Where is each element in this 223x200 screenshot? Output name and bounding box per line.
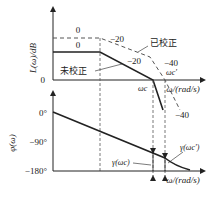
uncorrected-flat-slope: 0 [76, 40, 81, 50]
magnitude-x-label: ω/(rad/s) [166, 84, 199, 94]
corrected-margin-leader [168, 152, 183, 163]
corrected-flat-slope: 0 [76, 25, 81, 35]
corrected-mid-slope: −20 [110, 34, 125, 44]
uncorrected-magnitude-curve [53, 52, 163, 110]
corrected-crossover-label: ωc' [166, 68, 177, 77]
uncorrected-high-slope: −40 [175, 110, 190, 120]
phase-x-label: ω/(rad/s) [166, 175, 199, 185]
uncorrected-crossover-label: ωc [138, 84, 148, 93]
uncorrected-mid-slope: −20 [127, 56, 142, 66]
bode-diagram: 0 L(ω)/dB 0 0 −20 −20 −40 −40 已校正 未校正 ωc… [0, 0, 223, 200]
magnitude-zero-tick: 0 [41, 75, 46, 85]
corrected-margin-label: γ(ωc') [180, 143, 200, 152]
uncorrected-curve-label: 未校正 [60, 65, 87, 76]
phase-tick-0: 0° [39, 108, 48, 118]
phase-y-label: φ(ω) [7, 134, 17, 151]
phase-plot: 0° −90° −180° φ(ω) γ(ωc) γ(ωc') ω/(rad/s… [7, 93, 203, 185]
uncorrected-leader-line [95, 64, 122, 71]
corrected-margin-arrow-top [162, 153, 168, 159]
phase-tick-90: −90° [29, 137, 47, 147]
corrected-leader-line [138, 46, 148, 52]
corrected-curve-label: 已校正 [150, 37, 177, 48]
corrected-high-slope: −40 [164, 58, 179, 68]
magnitude-plot: 0 L(ω)/dB 0 0 −20 −20 −40 −40 已校正 未校正 ωc… [28, 9, 203, 120]
uncorrected-margin-label: γ(ωc) [112, 158, 130, 167]
uncorrected-margin-arrow-bottom [150, 175, 156, 181]
phase-tick-180: −180° [25, 166, 48, 176]
magnitude-y-label: L(ω)/dB [28, 43, 38, 74]
uncorrected-margin-leader [133, 163, 151, 165]
